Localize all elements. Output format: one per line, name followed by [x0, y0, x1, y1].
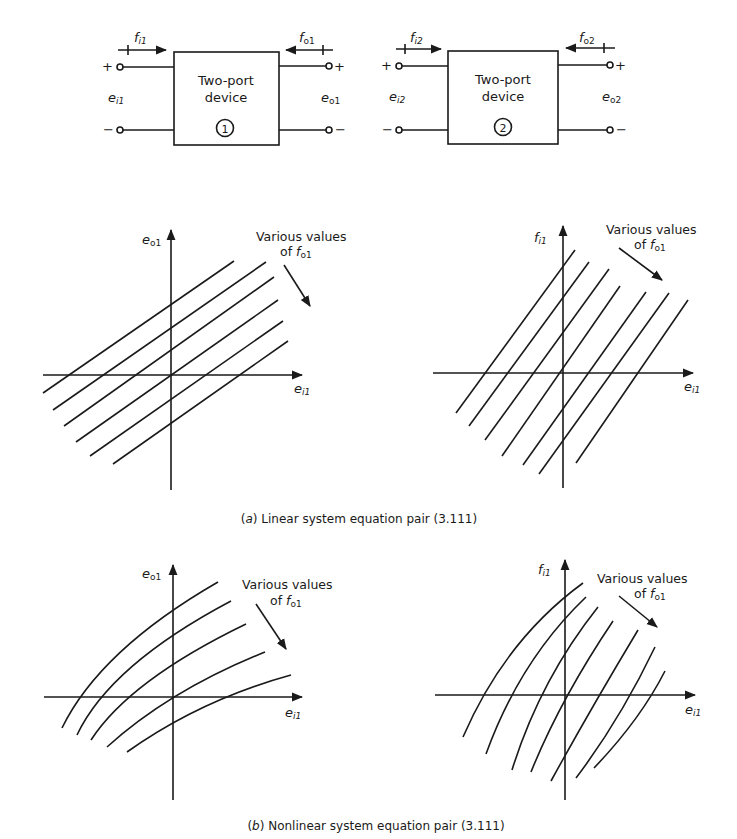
- plot-b-left: [44, 565, 302, 800]
- plot-a-right-labels: fi1 ei1 Various values of fo1: [534, 222, 700, 395]
- minus-sign: −: [616, 122, 627, 137]
- caption-b: (b) Nonlinear system equation pair (3.11…: [247, 819, 504, 833]
- annotation-text-2: of fo1: [270, 593, 302, 609]
- terminal-in-plus-1: [117, 64, 123, 70]
- x-axis-label: ei1: [684, 379, 700, 395]
- plot-a-right: [433, 226, 693, 488]
- effort-label-out-1: eo1: [321, 90, 340, 106]
- device-number: 1: [222, 123, 229, 136]
- annotation-arrow: [284, 265, 310, 306]
- flow-label-out-1: fo1: [299, 30, 315, 46]
- annotation-text-2: of fo1: [634, 237, 666, 253]
- device-label-line2: device: [205, 90, 248, 105]
- device-label-line2: device: [482, 89, 525, 104]
- y-axis-label: eo1: [142, 232, 161, 248]
- terminal-out-plus-2: [607, 62, 613, 68]
- device-label-line1: Two-port: [474, 72, 531, 87]
- device-label-line1: Two-port: [197, 73, 254, 88]
- minus-sign: −: [103, 122, 114, 137]
- annotation-text: Various values: [597, 571, 688, 586]
- annotation-text-2: of fo1: [634, 586, 666, 602]
- annotation-text: Various values: [606, 222, 697, 237]
- plus-sign: +: [381, 58, 392, 73]
- y-axis-label: eo1: [142, 566, 161, 582]
- terminal-out-minus-1: [326, 127, 332, 133]
- flow-label-in-2: fi2: [410, 30, 423, 46]
- x-axis-label: ei1: [685, 702, 701, 718]
- effort-label-in-2: ei2: [389, 89, 406, 105]
- linear-curves: [43, 261, 288, 464]
- terminal-in-plus-2: [396, 63, 402, 69]
- annotation-text-2: of fo1: [280, 244, 312, 260]
- flow-label-out-2: fo2: [579, 30, 595, 46]
- nonlinear-curves: [62, 582, 291, 752]
- figure-canvas: Two-port device 1 + − + − fi1 fo1 ei1 eo…: [0, 0, 737, 839]
- terminal-in-minus-1: [117, 127, 123, 133]
- device-1-labels: Two-port device 1 + − + − fi1 fo1 ei1 eo…: [102, 30, 346, 137]
- x-axis-label: ei1: [294, 381, 310, 397]
- y-axis-label: fi1: [538, 562, 551, 578]
- plus-sign: +: [102, 59, 113, 74]
- annotation-text: Various values: [242, 577, 333, 592]
- terminal-out-plus-1: [326, 63, 332, 69]
- effort-label-in-1: ei1: [108, 90, 124, 106]
- terminal-in-minus-2: [396, 127, 402, 133]
- caption-a: (a) Linear system equation pair (3.111): [241, 512, 477, 526]
- plus-sign: +: [615, 58, 626, 73]
- plot-a-left: [43, 230, 310, 490]
- annotation-arrow: [256, 604, 286, 649]
- effort-label-out-2: eo2: [602, 89, 621, 105]
- x-axis-label: ei1: [285, 705, 301, 721]
- plus-sign: +: [334, 59, 345, 74]
- flow-label-in-1: fi1: [134, 30, 147, 46]
- annotation-text: Various values: [256, 229, 347, 244]
- minus-sign: −: [335, 122, 346, 137]
- device-2-labels: Two-port device 2 + − + − fi2 fo2 ei2 eo…: [381, 30, 627, 137]
- linear-curves: [456, 250, 688, 474]
- terminal-out-minus-2: [607, 127, 613, 133]
- y-axis-label: fi1: [534, 230, 547, 246]
- nonlinear-curves: [463, 583, 665, 781]
- minus-sign: −: [382, 122, 393, 137]
- device-number: 2: [500, 122, 507, 135]
